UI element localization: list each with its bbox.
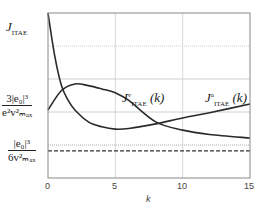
data-series — [48, 13, 250, 138]
x-tick-10: 10 — [177, 181, 187, 191]
y-label-bound-low: |e₀|³6v²ₘₐₓ — [8, 138, 36, 163]
y-label-j-itae: JITAE — [6, 20, 27, 37]
x-axis-label: k — [146, 194, 151, 204]
y-label-bound-mid: 3|e₀|³e²v²ₘₐₓ — [2, 93, 32, 118]
label-j-a-itae: JaITAE (k) — [205, 90, 247, 108]
x-tick-0: 0 — [45, 181, 50, 191]
reference-lines — [48, 145, 250, 151]
x-tick-5: 5 — [112, 181, 117, 191]
x-tick-15: 15 — [244, 181, 254, 191]
label-j-v-itae: JvITAE (k) — [122, 90, 164, 108]
